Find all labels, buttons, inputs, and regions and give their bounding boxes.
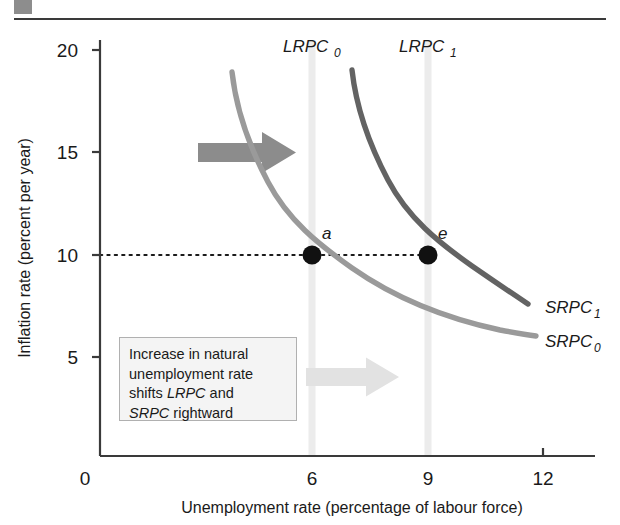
lrpc0-label: LRPC bbox=[283, 37, 329, 56]
chart-canvas: a e LRPC 0 LRPC 1 SRPC 1 SRPC 0 20 15 10… bbox=[0, 30, 620, 525]
figure-header bbox=[0, 0, 620, 30]
note-line-3-emphasis: LRPC bbox=[167, 385, 206, 401]
note-line-4-emphasis: SRPC bbox=[129, 405, 169, 421]
srpc0-curve bbox=[232, 72, 536, 336]
x-tick-label-6: 6 bbox=[307, 468, 318, 489]
lrpc1-label: LRPC bbox=[399, 37, 445, 56]
lrpc1-label-subscript: 1 bbox=[450, 46, 457, 60]
y-tick-label-10: 10 bbox=[57, 245, 78, 266]
y-tick-label-15: 15 bbox=[57, 142, 78, 163]
note-line-2: unemployment rate bbox=[129, 365, 287, 385]
point-a-label: a bbox=[322, 224, 331, 243]
x-tick-label-9: 9 bbox=[423, 468, 434, 489]
srpc1-curve bbox=[352, 70, 528, 304]
y-axis-title: Inflation rate (percent per year) bbox=[16, 138, 33, 358]
x-tick-label-12: 12 bbox=[532, 468, 553, 489]
note-line-1: Increase in natural bbox=[129, 345, 287, 365]
srpc0-label-subscript: 0 bbox=[594, 341, 601, 355]
note-line-4: SRPC rightward bbox=[129, 404, 287, 424]
srpc1-label: SRPC bbox=[545, 298, 593, 317]
phillips-curve-svg: a e LRPC 0 LRPC 1 SRPC 1 SRPC 0 20 15 10… bbox=[0, 30, 620, 525]
note-line-3-post: and bbox=[206, 385, 234, 401]
figure-number-block bbox=[14, 0, 32, 14]
point-e-label: e bbox=[438, 224, 447, 243]
y-tick-label-5: 5 bbox=[67, 347, 78, 368]
header-divider bbox=[14, 18, 606, 20]
annotation-note-box: Increase in natural unemployment rate sh… bbox=[119, 337, 297, 421]
srpc0-label: SRPC bbox=[545, 332, 593, 351]
x-axis-title: Unemployment rate (percentage of labour … bbox=[181, 499, 523, 516]
note-line-3: shifts LRPC and bbox=[129, 384, 287, 404]
point-e-marker bbox=[419, 246, 438, 265]
point-a-marker bbox=[303, 246, 322, 265]
note-line-3-pre: shifts bbox=[129, 385, 167, 401]
lrpc0-label-subscript: 0 bbox=[334, 46, 341, 60]
note-line-4-post: rightward bbox=[169, 405, 233, 421]
shift-arrow-lower bbox=[306, 358, 399, 397]
srpc1-label-subscript: 1 bbox=[594, 307, 601, 321]
y-tick-label-20: 20 bbox=[57, 40, 78, 61]
origin-label: 0 bbox=[80, 468, 91, 489]
